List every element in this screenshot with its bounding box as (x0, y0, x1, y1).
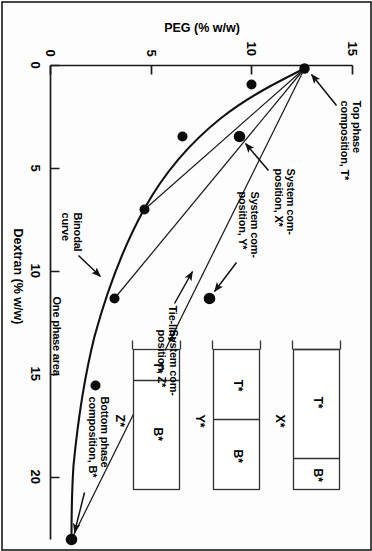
rotated-figure-container: 0 5 10 15 20 0 5 10 15 Dextran (% w/w) P… (0, 0, 372, 551)
point-bottom-phase-B (65, 533, 77, 545)
annotation-tie-line: Tie-line (166, 305, 178, 342)
y-tick-label-0: 0 (43, 49, 56, 56)
y-tick-label-15: 15 (345, 41, 358, 55)
tube-Y-top-label: T* (231, 379, 243, 391)
annotation-one-phase-area: One phase area (50, 296, 62, 375)
annotation-system-x: System com- position, X* (272, 168, 296, 234)
point-system-composition-Y (203, 292, 215, 304)
point-binodal-node-2 (177, 131, 187, 141)
point-top-phase-T (299, 63, 309, 73)
arrow-to-binodal-curve (78, 255, 100, 276)
point-binodal-node-5 (90, 380, 100, 390)
phase-diagram-figure: 0 5 10 15 20 0 5 10 15 Dextran (% w/w) P… (0, 0, 372, 551)
x-tick-label-0: 0 (28, 61, 41, 68)
x-tick-label-20: 20 (28, 469, 41, 483)
arrow-to-bottom-phase (74, 492, 84, 532)
tube-diagram-X (292, 340, 340, 489)
x-axis-title: Dextran (% w/w) (10, 228, 23, 324)
annotation-top-phase: Top phase composition, T* (338, 100, 362, 180)
tube-Z-name: Z* (112, 414, 125, 427)
y-axis-title: PEG (% w/w) (157, 22, 247, 35)
x-tick-label-15: 15 (28, 366, 41, 380)
arrow-to-tie-line (174, 271, 192, 303)
point-binodal-node-1 (246, 79, 256, 89)
annotation-system-y: System com- position, Y* (236, 191, 260, 257)
point-system-composition-X (233, 130, 245, 142)
annotation-bottom-phase: Bottom phase composition, B* (86, 396, 110, 477)
point-binodal-node-4 (109, 293, 119, 303)
x-tick-label-10: 10 (28, 263, 41, 277)
y-tick-label-10: 10 (244, 41, 257, 55)
x-tick-label-5: 5 (28, 164, 41, 171)
tube-Z-top-label: T* (151, 361, 163, 373)
tube-Y-name: Y* (192, 414, 205, 427)
arrow-to-top-phase (311, 74, 336, 105)
annotation-binodal-curve: Binodal curve (59, 212, 83, 251)
tube-Z-bottom-label: B* (151, 427, 163, 440)
point-binodal-node-3 (139, 204, 149, 214)
tube-X-top-label: T* (311, 396, 323, 408)
tube-X-name: X* (272, 414, 285, 427)
y-tick-label-5: 5 (144, 49, 157, 56)
tube-Y-bottom-label: B* (231, 449, 243, 462)
arrow-to-system-y (214, 262, 236, 291)
tube-X-bottom-label: B* (311, 468, 323, 481)
tube-diagram-Y (212, 340, 260, 489)
figure-page: 0 5 10 15 20 0 5 10 15 Dextran (% w/w) P… (0, 0, 372, 551)
